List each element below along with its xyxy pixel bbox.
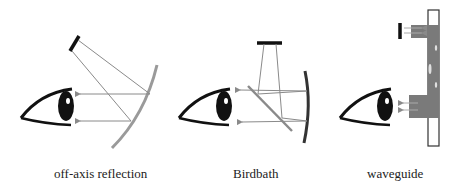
caption-birdbath: Birdbath (233, 166, 279, 182)
light-rays (72, 40, 150, 121)
out-coupler (409, 95, 428, 118)
optics-diagram (0, 0, 454, 191)
panel-birdbath (179, 43, 308, 143)
eye-icon (179, 89, 232, 125)
caption-off-axis: off-axis reflection (54, 166, 147, 182)
panel-waveguide (304, 10, 439, 146)
panel-off-axis (21, 36, 157, 148)
curved-mirror (304, 71, 308, 143)
eye-icon (340, 89, 393, 125)
eye-icon (21, 89, 74, 125)
display-panel (70, 36, 79, 51)
caption-waveguide: waveguide (367, 166, 423, 182)
in-coupler (411, 25, 428, 38)
